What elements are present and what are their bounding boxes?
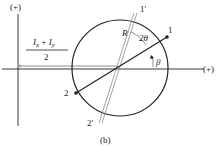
diagram-canvas: (+) (+) Ix + Iy 2 R 2 — [0, 0, 219, 146]
angle-beta-label: β — [155, 57, 161, 67]
rotated-diameter-1prime-2prime — [99, 13, 137, 123]
center-fraction-label: Ix + Iy 2 — [26, 37, 68, 62]
mohr-circle-diagram: (+) (+) Ix + Iy 2 R 2 — [0, 0, 219, 146]
mohr-circle — [72, 20, 168, 116]
vertical-axis-label: (+) — [10, 2, 21, 12]
horizontal-axis-label: (+) — [203, 64, 214, 74]
point-1-label: 1 — [168, 25, 173, 35]
beta-arrowhead — [150, 55, 154, 59]
point-2-marker — [74, 91, 78, 95]
point-1prime-label: 1′ — [140, 4, 147, 14]
svg-text:Ix + Iy: Ix + Iy — [32, 37, 56, 49]
point-1-marker — [165, 35, 169, 39]
point-2prime-label: 2′ — [87, 118, 94, 128]
angle-2theta-label: 2θ — [139, 33, 149, 43]
figure-caption: (b) — [100, 135, 111, 145]
svg-text:2: 2 — [44, 52, 49, 62]
point-2-label: 2 — [64, 88, 69, 98]
radius-label: R — [121, 28, 128, 38]
